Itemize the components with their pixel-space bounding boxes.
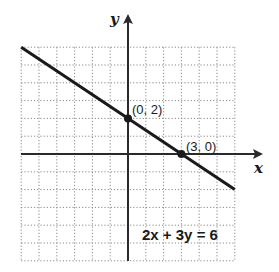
point-label-0-2: (0, 2) bbox=[132, 102, 162, 117]
coordinate-graph: x y (0, 2) (3, 0) 2x + 3y = 6 bbox=[0, 0, 279, 272]
y-axis-label: y bbox=[109, 10, 120, 28]
equation-label: 2x + 3y = 6 bbox=[142, 226, 218, 243]
point-0-2 bbox=[124, 114, 132, 122]
point-label-3-0: (3, 0) bbox=[186, 139, 216, 154]
x-axis-label: x bbox=[253, 159, 264, 177]
point-3-0 bbox=[177, 150, 185, 158]
